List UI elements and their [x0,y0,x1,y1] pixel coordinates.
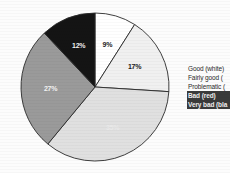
pie-chart-svg: 9%17%35%27%12% [10,6,180,169]
pie-chart: 9%17%35%27%12% [10,6,180,169]
pie-slice-label: 9% [103,41,114,48]
legend-item[interactable]: Fairly good ( [187,73,230,82]
pie-slice-label: 35% [106,124,120,131]
chart-page: 9%17%35%27%12% Good (white)Fairly good (… [0,0,230,173]
pie-slice-label: 27% [44,85,58,92]
legend-item[interactable]: Very bad (bla [187,100,230,109]
legend-item[interactable]: Problematic ( [187,82,230,91]
legend-item[interactable]: Bad (red) [187,91,230,100]
pie-slice-label: 12% [72,42,86,49]
pie-slice-label: 17% [128,63,142,70]
chart-legend[interactable]: Good (white)Fairly good (Problematic (Ba… [187,64,230,110]
legend-item[interactable]: Good (white) [187,64,230,73]
